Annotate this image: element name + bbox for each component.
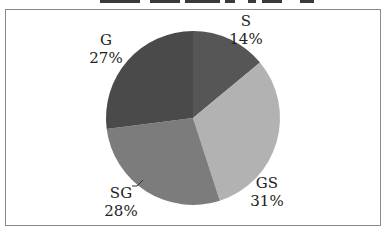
label-sg: SG 28% bbox=[104, 184, 137, 220]
label-gs: GS 31% bbox=[250, 174, 283, 210]
pie-chart bbox=[0, 0, 388, 232]
label-g: G 27% bbox=[89, 31, 122, 67]
label-s: S 14% bbox=[229, 12, 262, 48]
